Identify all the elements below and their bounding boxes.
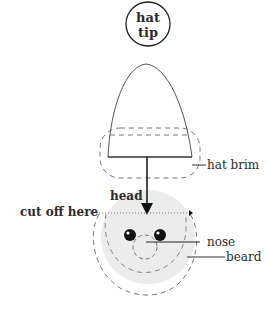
head-shape [101, 190, 195, 284]
head-label: head [110, 189, 143, 203]
beard-label: beard [226, 250, 262, 264]
nose-label: nose [207, 235, 235, 249]
left-eye-icon [124, 229, 136, 241]
hat-brim-label: hat brim [207, 158, 260, 172]
hat-tip-label-1: hat [136, 10, 160, 25]
right-eye-icon [154, 229, 166, 241]
diagram-canvas: hat tip hat brim head cut off here nose … [0, 0, 270, 314]
hat-tip-label-2: tip [138, 25, 158, 40]
hat-cone [108, 64, 192, 157]
cut-off-label: cut off here [20, 205, 98, 219]
